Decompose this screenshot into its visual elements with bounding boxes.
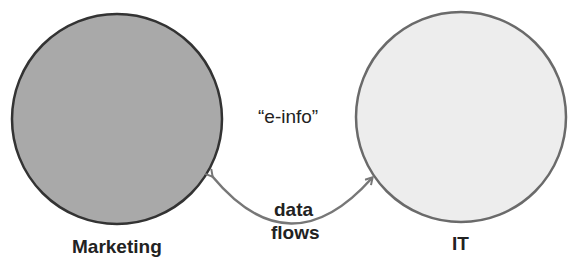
- data-flows-label-line2: flows: [271, 222, 320, 244]
- marketing-circle: [12, 14, 222, 224]
- it-label: IT: [452, 233, 469, 255]
- e-info-label: “e-info”: [258, 106, 318, 128]
- marketing-label: Marketing: [72, 236, 162, 258]
- it-circle: [356, 12, 566, 222]
- data-flows-label-line1: data: [274, 199, 313, 221]
